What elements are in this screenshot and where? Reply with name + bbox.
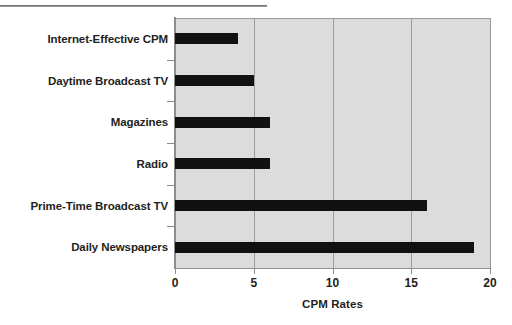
bar-chart-figure: Internet-Effective CPMDaytime Broadcast …: [0, 0, 512, 325]
x-tick-mark-20: [490, 269, 491, 274]
category-label: Daytime Broadcast TV: [0, 75, 168, 87]
category-label: Daily Newspapers: [0, 241, 168, 253]
bar: [175, 200, 427, 211]
x-tick-mark-5: [254, 269, 255, 274]
category-label: Radio: [0, 158, 168, 170]
y-tick-mark: [167, 226, 175, 227]
y-tick-mark: [167, 143, 175, 144]
x-tick-label-0: 0: [155, 276, 195, 290]
x-tick-label-20: 20: [470, 276, 510, 290]
y-tick-mark: [167, 185, 175, 186]
bar: [175, 33, 238, 44]
x-tick-label-10: 10: [313, 276, 353, 290]
bar: [175, 242, 474, 253]
gridline-10: [333, 19, 334, 269]
x-tick-mark-0: [175, 269, 176, 274]
x-axis-title: CPM Rates: [175, 298, 490, 310]
gridline-5: [254, 19, 255, 269]
category-label: Prime-Time Broadcast TV: [0, 200, 168, 212]
y-tick-mark: [167, 60, 175, 61]
top-divider-rule: [0, 5, 267, 7]
x-tick-label-5: 5: [234, 276, 274, 290]
x-tick-mark-15: [411, 269, 412, 274]
y-tick-mark: [167, 101, 175, 102]
category-label: Magazines: [0, 116, 168, 128]
bar: [175, 75, 254, 86]
category-label: Internet-Effective CPM: [0, 33, 168, 45]
x-tick-mark-10: [333, 269, 334, 274]
x-tick-label-15: 15: [391, 276, 431, 290]
plot-area: [175, 18, 491, 269]
gridline-15: [411, 19, 412, 269]
bar: [175, 117, 270, 128]
bar: [175, 158, 270, 169]
